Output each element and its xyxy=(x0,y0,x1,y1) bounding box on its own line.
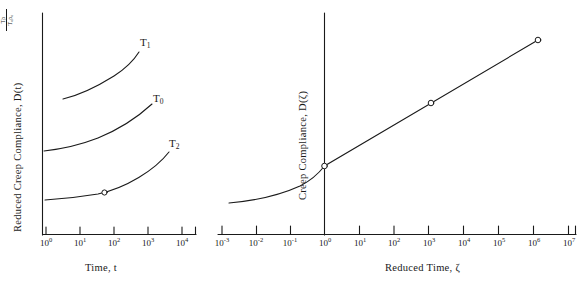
figure-canvas xyxy=(0,0,588,289)
curve-t1 xyxy=(63,52,139,99)
curve-t0 xyxy=(44,104,152,151)
marker-master-1e6 xyxy=(535,37,541,43)
marker-t2-1e2 xyxy=(102,190,107,195)
marker-master-1e0 xyxy=(322,163,328,169)
figure-root: Reduced Creep Compliance, D(t) Tρ T₀ρ₀ T… xyxy=(0,0,588,289)
marker-master-1e3 xyxy=(428,100,434,106)
curve-master xyxy=(229,40,538,203)
